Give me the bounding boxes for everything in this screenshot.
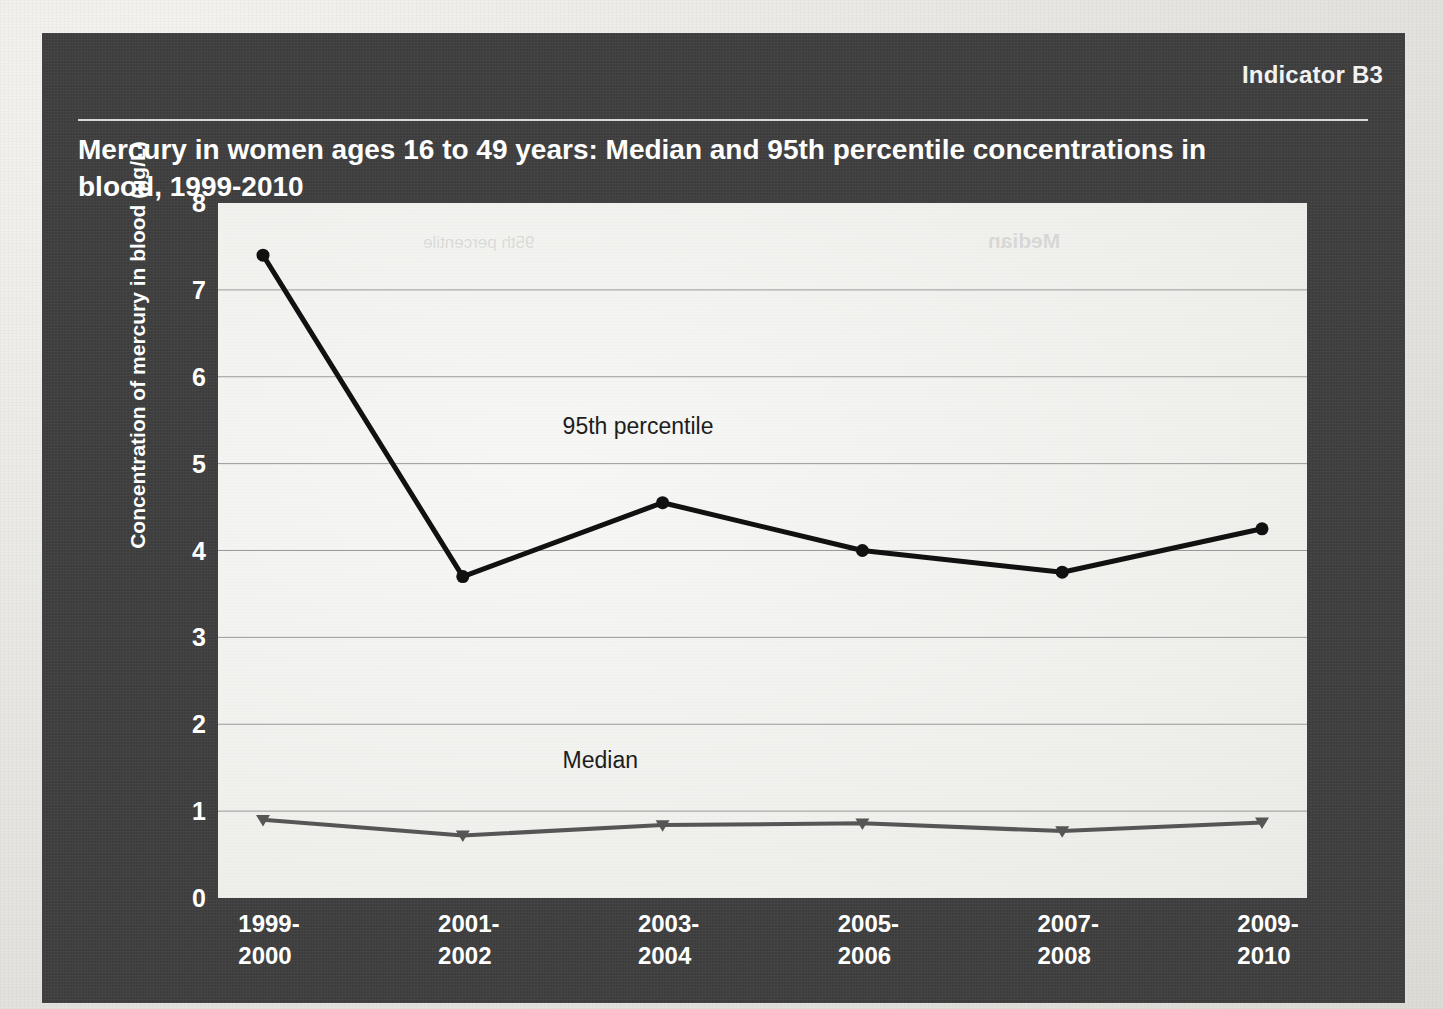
series-line [263, 820, 1262, 836]
x-axis-tick-2009-2010: 2009-2010 [1237, 908, 1298, 973]
series-median [256, 815, 1269, 842]
y-axis-tick-6: 6 [192, 362, 206, 391]
x-axis-tick-line: 2010 [1237, 940, 1298, 972]
figure-panel: Indicator B3 Mercury in women ages 16 to… [42, 33, 1405, 1003]
y-axis-tick-8: 8 [192, 189, 206, 218]
x-axis-tick-2007-2008: 2007-2008 [1037, 908, 1098, 973]
y-axis-tick-1: 1 [192, 797, 206, 826]
x-axis-tick-line: 2009- [1237, 908, 1298, 940]
header-divider [78, 119, 1368, 121]
x-axis-tick-line: 2001- [438, 908, 499, 940]
data-point-marker [1056, 566, 1069, 579]
indicator-label: Indicator B3 [1242, 61, 1383, 89]
x-axis-tick-line: 2007- [1037, 908, 1098, 940]
y-axis-tick-7: 7 [192, 275, 206, 304]
data-point-marker [257, 249, 270, 262]
x-axis-tick-line: 2008 [1037, 940, 1098, 972]
x-axis-tick-line: 2003- [638, 908, 699, 940]
plot-svg [218, 203, 1307, 898]
x-axis-tick-labels: 1999-20002001-20022003-20042005-20062007… [218, 908, 1307, 988]
data-point-marker [856, 544, 869, 557]
data-point-marker [1256, 522, 1269, 535]
x-axis-tick-line: 2004 [638, 940, 699, 972]
x-axis-tick-2001-2002: 2001-2002 [438, 908, 499, 973]
x-axis-tick-1999-2000: 1999-2000 [238, 908, 299, 973]
x-axis-tick-line: 2006 [838, 940, 899, 972]
data-point-marker [456, 570, 469, 583]
series-label-95th-percentile: 95th percentile [563, 413, 714, 440]
chart-title: Mercury in women ages 16 to 49 years: Me… [78, 131, 1258, 205]
data-point-marker [656, 496, 669, 509]
x-axis-tick-line: 2000 [238, 940, 299, 972]
y-axis-title: Concentration of mercury in blood (µg/L) [126, 65, 150, 625]
y-axis-tick-5: 5 [192, 449, 206, 478]
x-axis-tick-2003-2004: 2003-2004 [638, 908, 699, 973]
series-95th-percentile [257, 249, 1269, 583]
x-axis-tick-line: 2005- [838, 908, 899, 940]
plot-area: Median 95th percentile 95th percentile M… [218, 203, 1307, 898]
x-axis-tick-2005-2006: 2005-2006 [838, 908, 899, 973]
y-axis-tick-2: 2 [192, 710, 206, 739]
y-axis-tick-4: 4 [192, 536, 206, 565]
series-line [263, 255, 1262, 576]
y-axis-tick-0: 0 [192, 884, 206, 913]
x-axis-tick-line: 2002 [438, 940, 499, 972]
series-label-median: Median [563, 747, 638, 774]
y-axis-tick-labels: 012345678 [152, 203, 206, 898]
y-axis-tick-3: 3 [192, 623, 206, 652]
x-axis-tick-line: 1999- [238, 908, 299, 940]
